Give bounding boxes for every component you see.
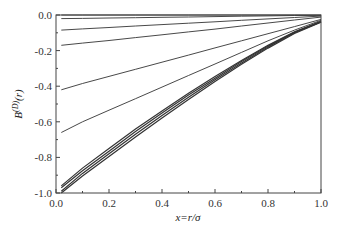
series-line (61, 17, 321, 45)
series-line (61, 19, 321, 89)
x-axis-label: x=r/σ (174, 211, 201, 223)
x-axis-ticks: 0.00.20.40.60.81.0 (49, 189, 328, 209)
series-line (61, 22, 321, 191)
y-tick-label: -0.6 (35, 116, 53, 128)
y-tick-label: 0.0 (38, 9, 52, 21)
y-tick-label: -1.0 (35, 187, 53, 199)
y-tick-label: -0.8 (35, 151, 53, 163)
data-curves (61, 15, 321, 193)
y-tick-label: -0.4 (35, 80, 53, 92)
x-tick-label: 0.8 (261, 197, 275, 209)
series-line (61, 21, 321, 186)
series-line (61, 20, 321, 132)
svg-text:B(D)(r): B(D)(r) (11, 89, 25, 119)
x-tick-label: 0.4 (155, 197, 169, 209)
y-tick-label: -0.2 (35, 45, 52, 57)
line-chart: 0.00.20.40.60.81.0 0.0-0.2-0.4-0.6-0.8-1… (0, 0, 343, 231)
series-line (61, 22, 321, 193)
x-tick-label: 1.0 (314, 197, 328, 209)
x-tick-label: 0.6 (208, 197, 222, 209)
x-tick-label: 0.2 (102, 197, 116, 209)
y-axis-label: B(D)(r) (11, 89, 25, 119)
